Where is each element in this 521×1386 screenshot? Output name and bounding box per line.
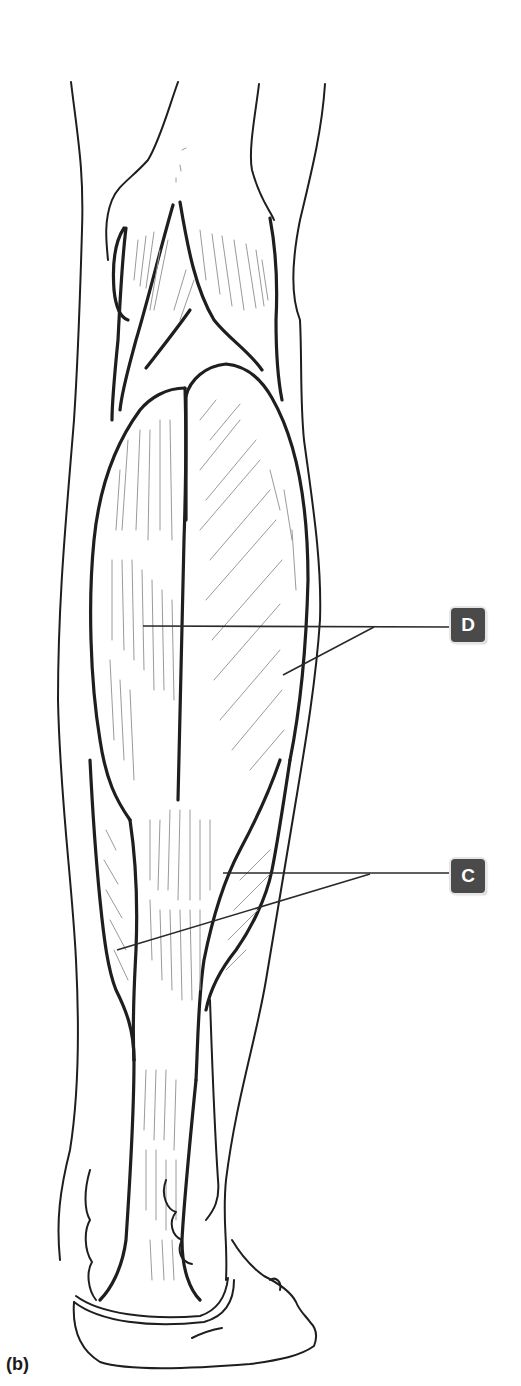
achilles-tendon <box>100 1060 200 1300</box>
hamstring-tendons <box>112 202 282 420</box>
gastrocnemius <box>91 364 308 820</box>
label-d-text: D <box>461 614 475 636</box>
label-c-text: C <box>461 865 475 887</box>
soleus <box>90 760 290 1080</box>
panel-letter: (b) <box>6 1354 29 1375</box>
heel-and-foot <box>74 1240 316 1368</box>
leader-lines <box>117 626 451 950</box>
calf-anatomy-illustration <box>0 0 521 1386</box>
label-c: C <box>451 859 485 893</box>
label-d: D <box>451 608 485 642</box>
